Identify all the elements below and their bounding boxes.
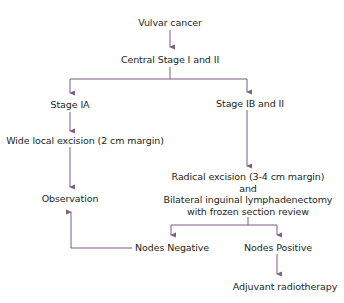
node-radical-excision: Radical excision (3-4 cm margin) and Bil…	[164, 171, 333, 217]
radical-line-1: Radical excision (3-4 cm margin)	[164, 171, 333, 183]
node-wide-local-excision: Wide local excision (2 cm margin)	[6, 135, 164, 147]
node-stage-ib-ii: Stage IB and II	[216, 98, 284, 110]
node-vulvar-cancer: Vulvar cancer	[138, 17, 202, 29]
radical-line-2: and	[164, 183, 333, 195]
node-nodes-negative: Nodes Negative	[135, 242, 209, 254]
node-nodes-positive: Nodes Positive	[244, 242, 312, 254]
node-observation: Observation	[42, 193, 99, 205]
node-adjuvant-radiotherapy: Adjuvant radiotherapy	[233, 281, 337, 293]
flowchart-edges	[0, 0, 344, 303]
edge-negative-observation	[71, 212, 132, 248]
radical-line-4: with frozen section review	[164, 206, 333, 218]
radical-line-3: Bilateral inguinal lymphadenectomy	[164, 194, 333, 206]
node-stage-ia: Stage IA	[51, 99, 90, 111]
node-central-stage: Central Stage I and II	[121, 54, 219, 66]
